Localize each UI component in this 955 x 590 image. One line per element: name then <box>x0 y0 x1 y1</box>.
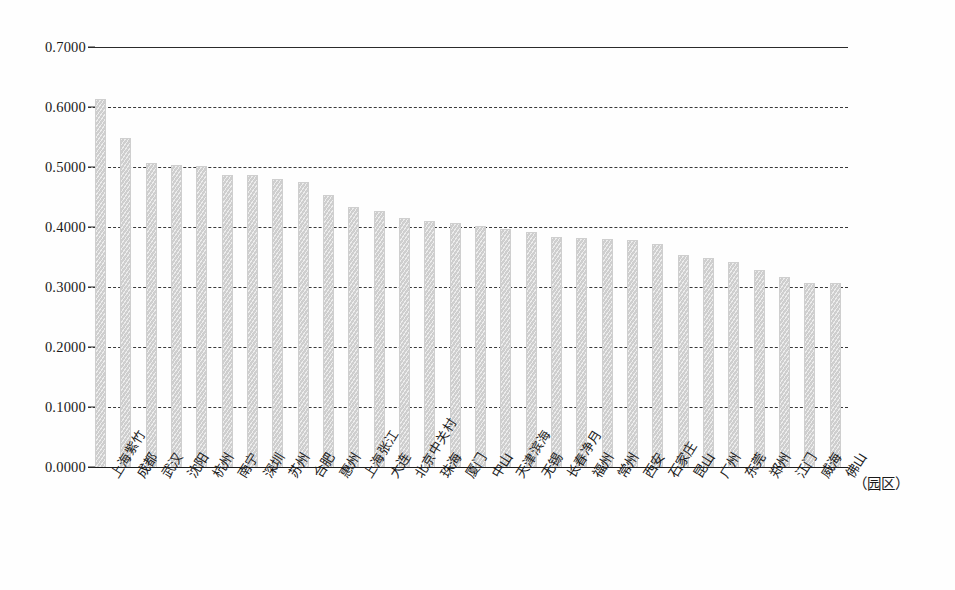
bar-slot <box>443 47 468 467</box>
bar <box>95 99 106 467</box>
bar <box>830 283 841 467</box>
bar-slot <box>189 47 214 467</box>
y-axis-tick-label: 0.1000 <box>45 399 88 416</box>
bar <box>703 258 714 467</box>
bar <box>779 277 790 467</box>
bar-slot <box>291 47 316 467</box>
bar-slot <box>139 47 164 467</box>
bar-slot <box>747 47 772 467</box>
bar <box>171 165 182 467</box>
bar-slot <box>265 47 290 467</box>
bar <box>222 175 233 467</box>
bar-slot <box>240 47 265 467</box>
bar-slot <box>215 47 240 467</box>
bar <box>475 226 486 467</box>
bar <box>652 244 663 467</box>
bar-slot <box>671 47 696 467</box>
bar <box>500 229 511 467</box>
bar <box>602 239 613 467</box>
bar <box>348 207 359 467</box>
x-axis-title: （园区） <box>853 472 909 493</box>
bar <box>754 270 765 467</box>
bar <box>399 218 410 467</box>
bar <box>146 163 157 467</box>
bar-slot <box>468 47 493 467</box>
bar <box>120 138 131 467</box>
bar-slot <box>113 47 138 467</box>
bar-slot <box>316 47 341 467</box>
bar <box>247 175 258 467</box>
bar-chart-figure: 0.70000.60000.50000.40000.30000.20000.10… <box>0 0 955 590</box>
bar-slot <box>721 47 746 467</box>
bar-slot <box>645 47 670 467</box>
bar-slot <box>569 47 594 467</box>
bar-slot <box>392 47 417 467</box>
bar-slot <box>544 47 569 467</box>
bar <box>678 255 689 467</box>
bar <box>804 283 815 467</box>
bar-slot <box>797 47 822 467</box>
bar-slot <box>519 47 544 467</box>
y-axis-tick-label: 0.2000 <box>45 339 88 356</box>
bar-slot <box>772 47 797 467</box>
bar-slot <box>823 47 848 467</box>
y-axis-tick-label: 0.6000 <box>45 99 88 116</box>
bar <box>551 237 562 467</box>
y-axis-tick-label: 0.4000 <box>45 219 88 236</box>
bar-slot <box>341 47 366 467</box>
bar-slot <box>620 47 645 467</box>
bar <box>298 182 309 467</box>
bar <box>627 240 638 467</box>
y-axis-tick-label: 0.3000 <box>45 279 88 296</box>
bar-series <box>88 47 848 467</box>
bar-slot <box>595 47 620 467</box>
bar-slot <box>367 47 392 467</box>
plot-area: 0.70000.60000.50000.40000.30000.20000.10… <box>88 47 848 467</box>
bar-slot <box>164 47 189 467</box>
x-axis-category-labels: 上海紫竹成都武汉沈阳杭州南宁深圳苏州合肥惠州上海张江大连北京中关村珠海厦门中山天… <box>88 467 848 587</box>
bar-slot <box>88 47 113 467</box>
bar-slot <box>696 47 721 467</box>
y-axis-tick-label: 0.0000 <box>45 459 88 476</box>
bar <box>272 179 283 467</box>
bar-slot <box>493 47 518 467</box>
bar <box>323 195 334 467</box>
y-axis-tick-label: 0.5000 <box>45 159 88 176</box>
bar <box>196 166 207 467</box>
y-axis-tick-label: 0.7000 <box>45 39 88 56</box>
bar <box>728 262 739 467</box>
bar-slot <box>417 47 442 467</box>
